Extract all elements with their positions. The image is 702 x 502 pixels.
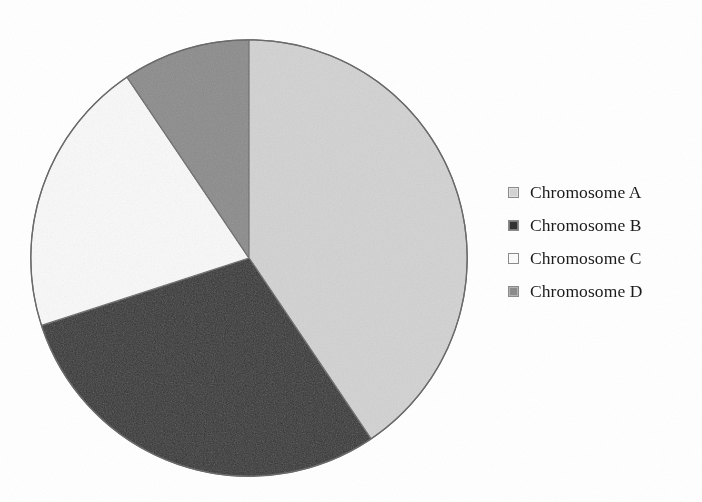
legend-swatch-chromosome-b [508,220,519,231]
pie-chart-plot-area [30,39,468,477]
legend-label-chromosome-d: Chromosome D [530,283,643,301]
legend-item-chromosome-c[interactable]: Chromosome C [508,242,688,275]
legend-swatch-chromosome-a [508,187,519,198]
legend-item-chromosome-b[interactable]: Chromosome B [508,209,688,242]
legend-label-chromosome-a: Chromosome A [530,184,642,202]
legend-label-chromosome-c: Chromosome C [530,250,642,268]
legend-item-chromosome-d[interactable]: Chromosome D [508,275,688,308]
legend-swatch-chromosome-c [508,253,519,264]
pie-svg [30,39,468,477]
chart-legend: Chromosome A Chromosome B Chromosome C C… [508,176,688,308]
legend-swatch-chromosome-d [508,286,519,297]
legend-label-chromosome-b: Chromosome B [530,217,642,235]
legend-item-chromosome-a[interactable]: Chromosome A [508,176,688,209]
pie-chart-figure: Chromosome A Chromosome B Chromosome C C… [0,0,702,502]
pie-slices [31,40,467,476]
